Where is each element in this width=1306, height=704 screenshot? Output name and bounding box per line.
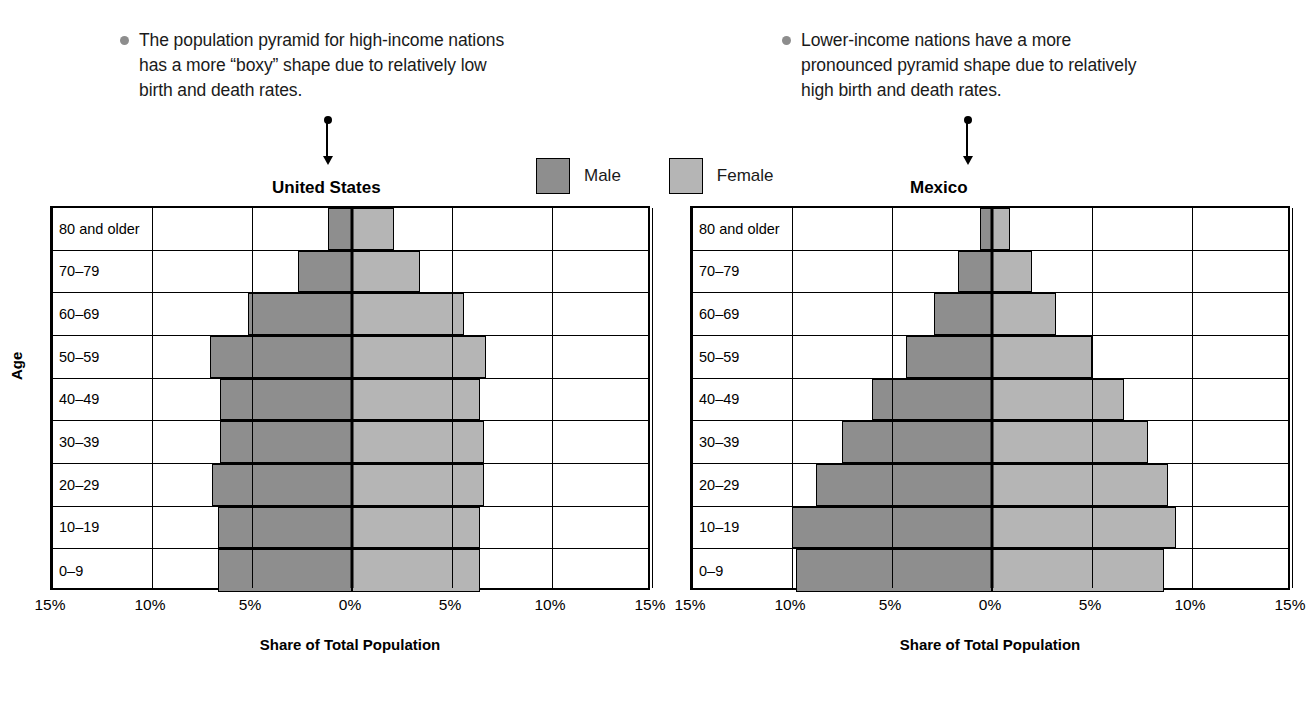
bar-female [992, 251, 1032, 293]
bar-male [816, 464, 992, 506]
bar-female [992, 549, 1164, 592]
x-tick-label: 5% [1079, 596, 1101, 614]
bar-male [872, 379, 992, 421]
bar-male [958, 251, 992, 293]
legend-entry-male: Male [536, 158, 621, 194]
bullet-icon [782, 36, 791, 45]
bar-female [352, 208, 394, 250]
plot-area: 80 and older70–7960–6950–5940–4930–3920–… [50, 206, 650, 590]
leader-dot-icon [964, 116, 972, 124]
bar-male [906, 336, 992, 378]
chart-title: United States [272, 178, 381, 198]
age-group-label: 20–29 [59, 477, 99, 493]
x-tick-label: 10% [1174, 596, 1205, 614]
leader-arrow-icon [323, 156, 333, 165]
legend-swatch-female [669, 158, 703, 194]
bar-male [220, 379, 352, 421]
x-tick-label: 15% [34, 596, 65, 614]
bar-male [328, 208, 352, 250]
age-group-label: 80 and older [59, 221, 140, 237]
age-group-label: 30–39 [59, 434, 99, 450]
bar-male [220, 421, 352, 463]
bar-male [796, 549, 992, 592]
annotation-text: Lower-income nations have a more pronoun… [801, 28, 1162, 103]
gridline [892, 208, 893, 588]
bar-male [298, 251, 352, 293]
annotation-callout-united-states: The population pyramid for high-income n… [120, 28, 520, 103]
age-group-label: 10–19 [699, 519, 739, 535]
bar-male [210, 336, 352, 378]
bullet-icon [120, 36, 129, 45]
annotation-text: The population pyramid for high-income n… [139, 28, 520, 103]
gridline [652, 208, 653, 588]
age-group-label: 50–59 [59, 349, 99, 365]
bar-male [212, 464, 352, 506]
legend-label-female: Female [717, 166, 774, 186]
x-tick-label: 10% [774, 596, 805, 614]
bar-female [352, 507, 480, 549]
bar-male [934, 293, 992, 335]
gridline [1192, 208, 1193, 588]
bar-male [842, 421, 992, 463]
bar-female [992, 208, 1010, 250]
bar-female [352, 251, 420, 293]
age-group-label: 40–49 [699, 391, 739, 407]
gridline [252, 208, 253, 588]
zero-axis-line [991, 208, 994, 588]
plot-area: 80 and older70–7960–6950–5940–4930–3920–… [690, 206, 1290, 590]
x-tick-label: 15% [1274, 596, 1305, 614]
age-group-label: 30–39 [699, 434, 739, 450]
x-tick-label: 15% [634, 596, 665, 614]
gridline [1092, 208, 1093, 588]
bar-female [992, 379, 1124, 421]
age-group-label: 70–79 [699, 263, 739, 279]
x-tick-label: 5% [239, 596, 261, 614]
bar-female [992, 464, 1168, 506]
x-axis-label: Share of Total Population [690, 636, 1290, 653]
annotation-callout-mexico: Lower-income nations have a more pronoun… [782, 28, 1162, 103]
x-axis-ticks: 15%10%5%0%5%10%15% [50, 596, 650, 618]
chart-title: Mexico [910, 178, 968, 198]
x-tick-label: 15% [674, 596, 705, 614]
gridline [1292, 208, 1293, 588]
zero-axis-line [351, 208, 354, 588]
age-group-label: 70–79 [59, 263, 99, 279]
age-group-label: 40–49 [59, 391, 99, 407]
x-axis-label: Share of Total Population [50, 636, 650, 653]
bar-male [248, 293, 352, 335]
bar-female [992, 507, 1176, 549]
age-group-label: 10–19 [59, 519, 99, 535]
age-group-label: 20–29 [699, 477, 739, 493]
leader-arrow-icon [963, 156, 973, 165]
age-group-label: 80 and older [699, 221, 780, 237]
x-tick-label: 10% [534, 596, 565, 614]
gridline [452, 208, 453, 588]
x-tick-label: 0% [339, 596, 361, 614]
bar-female [352, 293, 464, 335]
leader-line-mexico [966, 120, 968, 156]
bar-female [352, 464, 484, 506]
x-tick-label: 10% [134, 596, 165, 614]
age-group-label: 60–69 [699, 306, 739, 322]
gridline [52, 208, 53, 588]
leader-line-united-states [326, 120, 328, 156]
gridline [792, 208, 793, 588]
gridline [692, 208, 693, 588]
bar-female [992, 421, 1148, 463]
y-axis-label: Age [8, 352, 25, 380]
age-group-label: 0–9 [59, 563, 83, 579]
age-group-label: 50–59 [699, 349, 739, 365]
x-tick-label: 5% [879, 596, 901, 614]
legend-entry-female: Female [669, 158, 774, 194]
x-tick-label: 5% [439, 596, 461, 614]
x-axis-ticks: 15%10%5%0%5%10%15% [690, 596, 1290, 618]
age-group-label: 0–9 [699, 563, 723, 579]
legend-label-male: Male [584, 166, 621, 186]
bar-male [218, 549, 352, 592]
bar-female [352, 336, 486, 378]
gridline [152, 208, 153, 588]
bar-female [352, 421, 484, 463]
leader-dot-icon [324, 116, 332, 124]
x-tick-label: 0% [979, 596, 1001, 614]
chart-legend: Male Female [536, 158, 774, 194]
